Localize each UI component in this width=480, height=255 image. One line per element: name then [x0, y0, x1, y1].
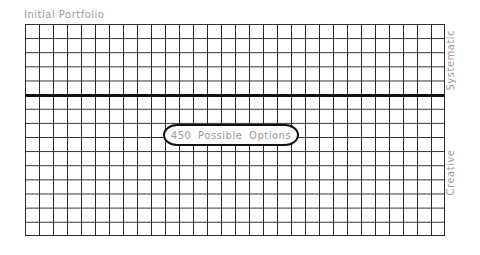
- diagram-title: Initial Portfolio: [24, 9, 105, 20]
- creative-label: Creative: [445, 143, 456, 203]
- callout-text: 450 Possible Options: [171, 130, 291, 141]
- systematic-label: Systematic: [445, 31, 456, 91]
- systematic-creative-divider: [25, 94, 445, 97]
- possible-options-callout: 450 Possible Options: [163, 124, 299, 146]
